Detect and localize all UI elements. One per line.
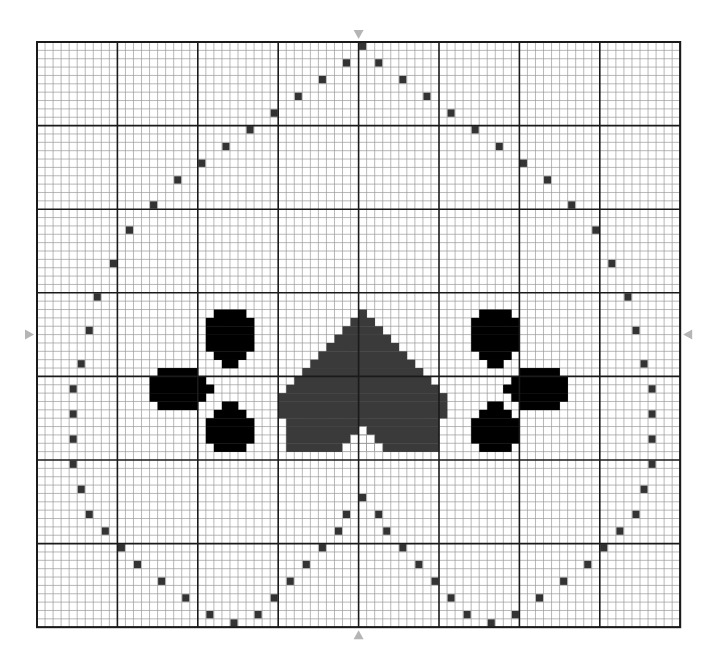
stitch-chart: [0, 0, 716, 653]
stitch-dot: [70, 435, 77, 442]
flower-petal-stitch: [206, 435, 255, 444]
flower-petal-stitch: [206, 318, 255, 327]
flower-petal-stitch: [214, 310, 246, 319]
stitch-dot: [287, 578, 294, 585]
heart-stitch-row: [278, 410, 447, 419]
stitch-dot: [584, 561, 591, 568]
flower-petal-stitch: [479, 310, 511, 319]
stitch-dot: [343, 511, 350, 518]
stitch-dot: [472, 126, 479, 133]
stitch-dot: [359, 494, 366, 501]
flower-petal-stitch: [222, 401, 238, 410]
heart-stitch-row: [326, 343, 399, 352]
heart-stitch-row: [343, 326, 384, 335]
stitch-dot: [496, 143, 503, 150]
stitch-dot: [544, 176, 551, 183]
stitch-dot: [94, 293, 101, 300]
stitch-dot: [520, 160, 527, 167]
stitch-dot: [134, 561, 141, 568]
stitch-dot: [182, 594, 189, 601]
heart-stitch-row: [302, 368, 423, 377]
flower-petal-stitch: [471, 326, 520, 335]
stitch-dot: [512, 611, 519, 618]
flower-center-stitch: [503, 385, 519, 393]
stitch-dot: [319, 76, 326, 83]
stitch-dot: [206, 611, 213, 618]
flower-petal-stitch: [471, 318, 520, 327]
stitch-dot: [78, 486, 85, 493]
flower-petal-stitch: [206, 335, 255, 344]
stitch-dot: [230, 619, 237, 626]
stitch-dot: [70, 385, 77, 392]
heart-stitch-row: [286, 385, 439, 394]
stitch-dot: [303, 561, 310, 568]
center-marker-right-icon: [683, 330, 692, 340]
stitch-dot: [70, 410, 77, 417]
flower-center-stitch: [198, 385, 214, 393]
flower-petal-stitch: [471, 335, 520, 344]
stitch-dot: [118, 544, 125, 551]
stitch-dot: [464, 611, 471, 618]
flower-petal-stitch: [471, 343, 520, 352]
flower-petal-stitch: [471, 418, 520, 427]
stitch-dot: [174, 176, 181, 183]
flower-petal-stitch: [206, 427, 255, 436]
stitch-dot: [222, 143, 229, 150]
stitch-dot: [102, 527, 109, 534]
stitch-dot: [536, 594, 543, 601]
heart-notch: [359, 427, 367, 436]
stitch-dot: [110, 260, 117, 267]
stitch-dot: [383, 527, 390, 534]
stitch-dot: [86, 327, 93, 334]
flower-petal-stitch: [487, 401, 503, 410]
flower-petal-stitch: [479, 351, 511, 360]
flower-petal-stitch: [214, 443, 246, 452]
left-flower-motif: [150, 310, 255, 452]
flower-petal-stitch: [222, 360, 238, 369]
stitch-dot: [616, 527, 623, 534]
heart-stitch-row: [278, 393, 447, 402]
stitch-dot: [431, 578, 438, 585]
stitch-dot: [295, 93, 302, 100]
flower-petal-stitch: [158, 368, 199, 377]
flower-petal-stitch: [158, 401, 199, 410]
stitch-dot: [399, 544, 406, 551]
heart-motif: [278, 310, 447, 452]
flower-petal-stitch: [519, 368, 560, 377]
flower-petal-stitch: [214, 351, 246, 360]
heart-stitch-row: [359, 310, 367, 319]
stitch-dot: [488, 619, 495, 626]
stitch-dot: [641, 360, 648, 367]
stitch-dot: [592, 226, 599, 233]
flower-petal-stitch: [487, 360, 503, 369]
stitch-dot: [198, 160, 205, 167]
center-marker-top-icon: [354, 30, 364, 39]
stitch-dot: [150, 201, 157, 208]
stitch-dot: [415, 561, 422, 568]
flower-petal-stitch: [519, 401, 560, 410]
flower-petal-stitch: [471, 427, 520, 436]
stitch-dot: [335, 527, 342, 534]
stitch-dot: [78, 360, 85, 367]
heart-stitch-row: [351, 318, 375, 327]
stitch-dot: [568, 201, 575, 208]
stitch-dot: [126, 226, 133, 233]
flower-petal-stitch: [471, 435, 520, 444]
stitch-dot: [247, 126, 254, 133]
stitch-dot: [448, 594, 455, 601]
flower-petal-stitch: [479, 410, 511, 419]
stitch-dot: [70, 461, 77, 468]
stitch-dot: [649, 410, 656, 417]
stitch-dot: [649, 435, 656, 442]
heart-stitch-row: [286, 418, 439, 427]
stitch-dot: [423, 93, 430, 100]
stitch-dot: [649, 385, 656, 392]
flower-petal-stitch: [206, 418, 255, 427]
stitch-dot: [632, 511, 639, 518]
stitch-dot: [255, 611, 262, 618]
stitch-dot: [375, 59, 382, 66]
stitch-dot: [359, 43, 366, 50]
stitch-dot: [271, 109, 278, 116]
flower-petal-stitch: [214, 410, 246, 419]
center-marker-bottom-icon: [354, 630, 364, 639]
